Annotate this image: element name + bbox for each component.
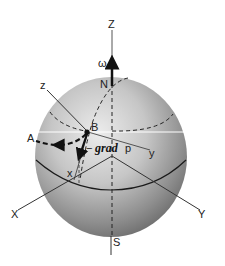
label-grad-p: p bbox=[125, 142, 131, 154]
label-grad: grad bbox=[94, 141, 119, 155]
label-x-axis: X bbox=[11, 208, 19, 220]
label-grad-minus: − bbox=[86, 142, 92, 154]
label-local-x: x bbox=[67, 167, 73, 179]
label-south: S bbox=[113, 236, 120, 248]
point-b bbox=[84, 129, 89, 134]
label-y-axis: Y bbox=[198, 208, 206, 220]
label-local-z: z bbox=[40, 79, 46, 91]
label-local-y: y bbox=[149, 147, 155, 159]
sphere-diagram: Z ω N z B A − grad p y x X Y S bbox=[0, 0, 225, 266]
label-a: A bbox=[27, 132, 35, 144]
label-omega: ω bbox=[98, 57, 107, 69]
label-b: B bbox=[91, 121, 98, 133]
label-north: N bbox=[100, 78, 108, 90]
label-z-axis: Z bbox=[108, 18, 115, 30]
